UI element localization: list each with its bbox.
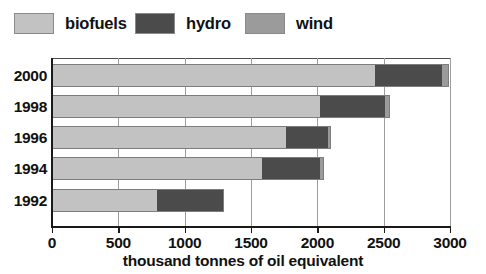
x-tick-label: 1000 — [168, 234, 201, 252]
x-tick-label: 2000 — [301, 234, 334, 252]
bar-segment-hydro — [375, 64, 442, 87]
x-tick — [52, 227, 53, 233]
bar-segment-biofuels — [52, 64, 375, 87]
y-tick-label: 1998 — [14, 98, 47, 116]
bar-segment-biofuels — [52, 157, 262, 180]
bar-segment-hydro — [320, 95, 385, 118]
x-tick-label: 500 — [106, 234, 131, 252]
y-tick-label: 1992 — [14, 192, 47, 210]
bar-segment-biofuels — [52, 189, 157, 212]
x-tick — [317, 227, 318, 233]
x-tick-label: 0 — [48, 234, 56, 252]
x-tick — [185, 227, 186, 233]
x-tick — [384, 227, 385, 233]
gridline — [450, 58, 451, 226]
y-tick-label: 1994 — [14, 160, 47, 178]
bar-segment-wind — [385, 95, 390, 118]
bar-segment-hydro — [157, 189, 224, 212]
y-tick-label: 2000 — [14, 67, 47, 85]
bar-segment-biofuels — [52, 95, 320, 118]
y-axis-line — [51, 58, 53, 227]
x-tick — [450, 227, 451, 233]
bar-segment-hydro — [262, 157, 320, 180]
x-tick-label: 1500 — [234, 234, 267, 252]
bar-segment-wind — [328, 126, 331, 149]
bar-segment-wind — [442, 64, 449, 87]
plot-area: 050010001500200025003000 200019981996199… — [0, 0, 486, 274]
x-tick — [118, 227, 119, 233]
x-tick-label: 3000 — [433, 234, 466, 252]
y-tick-label: 1996 — [14, 129, 47, 147]
x-tick-label: 2500 — [367, 234, 400, 252]
bar-segment-hydro — [286, 126, 328, 149]
x-axis-title: thousand tonnes of oil equivalent — [0, 252, 486, 270]
x-tick — [251, 227, 252, 233]
bar-segment-biofuels — [52, 126, 286, 149]
bar-segment-wind — [320, 157, 324, 180]
bar-chart: biofuels hydro wind 05001000150020002500… — [0, 0, 486, 274]
